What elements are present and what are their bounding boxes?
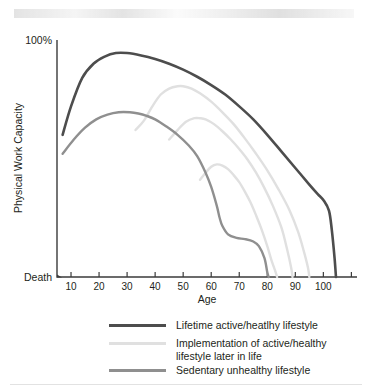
x-axis-title: Age: [198, 293, 217, 305]
x-tick-label-50: 50: [178, 281, 190, 292]
chart-svg: Lifetime active/heatlhy lifestyleImpleme…: [0, 0, 371, 392]
x-tick-label-40: 40: [150, 281, 162, 292]
bottom-divider: [10, 384, 362, 385]
curve-series-4: Sedentary unhealthy lifestyle: [63, 112, 269, 277]
x-tick-label-10: 10: [65, 281, 77, 292]
curve-series-1: Implementation of active/healthy lifesty…: [136, 86, 310, 277]
legend-label-lifetime-active: Lifetime active/heatlhy lifestyle: [176, 319, 318, 331]
x-tick-label-30: 30: [122, 281, 134, 292]
chart-legend: Lifetime active/heatlhy lifestyleImpleme…: [109, 319, 327, 376]
curve-series-0: Lifetime active/heatlhy lifestyle: [63, 53, 336, 277]
figure-container: Lifetime active/heatlhy lifestyleImpleme…: [0, 0, 371, 392]
x-tick-label-20: 20: [93, 281, 105, 292]
data-curves-group: Lifetime active/heatlhy lifestyleImpleme…: [63, 53, 336, 277]
legend-label-implementation-line2: lifestyle later in life: [176, 350, 262, 362]
x-tick-labels: 102030405060708090100: [65, 281, 332, 292]
x-tick-label-90: 90: [290, 281, 302, 292]
x-tick-label-60: 60: [206, 281, 218, 292]
axes-group: [57, 40, 357, 277]
y-axis-top-label: 100%: [25, 34, 52, 46]
x-tick-label-100: 100: [315, 281, 332, 292]
x-tick-label-80: 80: [262, 281, 274, 292]
legend-label-implementation-line1: Implementation of active/healthy: [176, 337, 327, 349]
axis-lines: [57, 40, 357, 277]
y-axis-title: Physical Work Capacity: [12, 102, 24, 213]
legend-label-sedentary: Sedentary unhealthy lifestyle: [176, 364, 310, 376]
y-axis-bottom-label: Death: [24, 271, 52, 283]
x-tick-label-70: 70: [234, 281, 246, 292]
